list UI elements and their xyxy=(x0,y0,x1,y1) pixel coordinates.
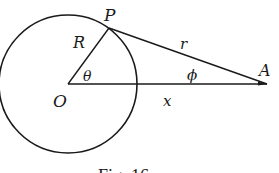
label-r: r xyxy=(180,35,188,53)
label-x: x xyxy=(163,92,172,110)
label-R: R xyxy=(72,33,85,52)
label-phi: ϕ xyxy=(187,66,197,84)
label-O: O xyxy=(53,91,67,111)
label-A: A xyxy=(257,61,271,80)
figure-caption: Fig. 16 xyxy=(98,166,149,173)
label-P: P xyxy=(103,5,116,25)
label-theta: θ xyxy=(83,68,92,84)
geometry-diagram: P R r θ ϕ A O x Fig. 16 xyxy=(0,0,279,173)
